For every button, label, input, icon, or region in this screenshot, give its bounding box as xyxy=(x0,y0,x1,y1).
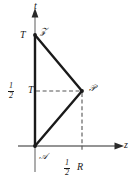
point-marker-A xyxy=(33,144,37,148)
tick-label-half-t-fraction: 1 2 xyxy=(8,82,14,100)
tick-label-T: T xyxy=(20,30,26,40)
tick-label-half-r-fraction: 1 2 xyxy=(64,159,70,177)
segment-B-to-P xyxy=(35,35,82,91)
half-t-numerator: 1 xyxy=(8,82,14,90)
half-r-denominator: 2 xyxy=(64,169,70,177)
point-label-B: 𝒵 xyxy=(40,27,47,36)
t-axis-label: t xyxy=(34,1,37,11)
segment-P-to-A xyxy=(35,91,82,146)
point-marker-B xyxy=(33,33,37,37)
tick-label-half-t-symbol: T xyxy=(28,85,34,95)
z-axis-arrowhead xyxy=(115,143,125,150)
point-marker-P xyxy=(80,89,84,93)
half-r-numerator: 1 xyxy=(64,159,70,167)
z-axis-label: z xyxy=(124,140,128,150)
point-label-P: 𝒫 xyxy=(89,84,95,93)
tick-label-half-r-symbol: R xyxy=(77,162,83,172)
point-label-A: 𝒜 xyxy=(39,152,48,161)
half-t-denominator: 2 xyxy=(8,92,14,100)
spacetime-diagram: t z T 1 2 T 1 2 R 𝒵 𝒫 𝒜 xyxy=(0,0,134,185)
